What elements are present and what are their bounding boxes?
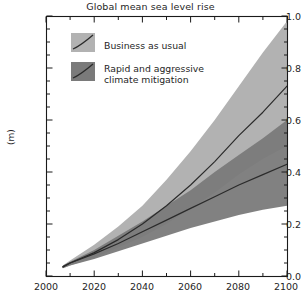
y-tick-label: 0.6: [273, 115, 301, 126]
y-tick-label: 1.0: [273, 11, 301, 22]
y-tick-label: 0.4: [273, 167, 301, 178]
x-tick-label: 2080: [217, 281, 259, 292]
legend-label-mitigation-line2: climate mitigation: [104, 75, 189, 86]
y-tick-label: 0.8: [273, 63, 301, 74]
x-tick-label: 2100: [265, 281, 301, 292]
legend-label-business-as-usual: Business as usual: [104, 41, 186, 52]
legend-swatch-1: [71, 62, 95, 81]
legend-swatches: [71, 33, 95, 81]
y-tick-label: 0.2: [273, 219, 301, 230]
legend-swatch-0: [71, 33, 95, 52]
x-tick-label: 2060: [169, 281, 211, 292]
legend-label-mitigation-line1: Rapid and aggressive: [104, 64, 204, 75]
chart-title: Global mean sea level rise: [0, 1, 301, 12]
chart-figure: Global mean sea level rise (m) 1.0 0.8 0…: [0, 0, 301, 303]
uncertainty-bands: [63, 21, 287, 268]
x-tick-label: 2000: [25, 281, 67, 292]
x-tick-label: 2040: [121, 281, 163, 292]
x-tick-label: 2020: [73, 281, 115, 292]
y-axis-label: (m): [6, 117, 16, 157]
